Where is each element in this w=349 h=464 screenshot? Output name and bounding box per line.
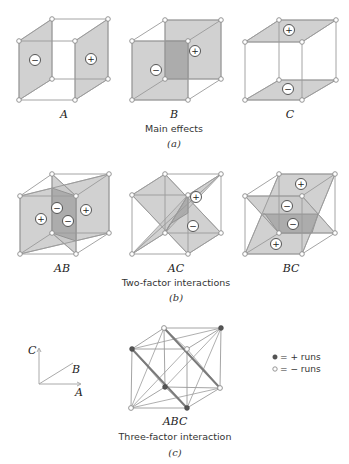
cube-b: − + B xyxy=(130,18,224,121)
cube-label-b: B xyxy=(169,108,178,121)
face-overlap xyxy=(165,41,188,79)
svg-text:+: + xyxy=(297,179,305,189)
plus-sign-icon: + xyxy=(271,239,282,250)
axis-label-b: B xyxy=(71,363,80,376)
open-dot-icon xyxy=(273,367,277,371)
plus-run-vertex xyxy=(185,406,190,411)
dark-dot-icon xyxy=(273,355,277,359)
plus-run-vertex xyxy=(219,326,224,331)
minus-sign-icon: − xyxy=(282,201,293,212)
minus-sign-icon: − xyxy=(288,219,299,230)
svg-text:−: − xyxy=(283,201,291,211)
axis-diagram: C B A xyxy=(28,344,83,399)
legend-minus-runs: = − runs xyxy=(280,364,321,374)
plus-run-vertex xyxy=(130,347,135,352)
cube-ac: + − AC xyxy=(130,172,224,275)
minus-run-vertex xyxy=(162,326,167,331)
cube-bc: + − − + BC xyxy=(243,172,338,275)
legend-plus-runs: = + runs xyxy=(280,352,321,362)
cube-label-ac: AC xyxy=(167,262,185,275)
minus-sign-icon: − xyxy=(30,55,41,66)
cube-ab: + − − + AB xyxy=(18,172,112,275)
svg-text:−: − xyxy=(284,84,292,94)
part-label-b: (b) xyxy=(169,292,183,303)
part-label-a: (a) xyxy=(167,138,181,149)
part-label-c: (c) xyxy=(168,447,182,458)
svg-text:−: − xyxy=(189,221,197,231)
cube-label-a: A xyxy=(59,108,68,121)
plus-sign-icon: + xyxy=(190,46,201,57)
svg-text:−: − xyxy=(152,65,160,75)
b-axis xyxy=(39,363,73,384)
plus-sign-icon: + xyxy=(36,214,47,225)
cube-label-c: C xyxy=(286,108,295,121)
minus-sign-icon: − xyxy=(188,221,199,232)
svg-text:+: + xyxy=(82,205,90,215)
svg-text:−: − xyxy=(64,216,72,226)
legend: = + runs = − runs xyxy=(273,352,321,374)
minus-run-vertex xyxy=(185,347,190,352)
svg-text:−: − xyxy=(31,55,39,65)
axis-label-c: C xyxy=(28,344,37,357)
plus-sign-icon: + xyxy=(86,54,97,65)
svg-text:+: + xyxy=(192,192,200,202)
caption-two-factor: Two-factor interactions xyxy=(121,277,231,288)
cube-edges xyxy=(132,174,221,254)
minus-run-vertex xyxy=(129,406,134,411)
cube-c: + − C xyxy=(243,18,339,121)
cube-label-bc: BC xyxy=(282,262,300,275)
cube-a: − + A xyxy=(17,17,111,121)
svg-text:+: + xyxy=(272,239,280,249)
svg-text:−: − xyxy=(289,219,297,229)
svg-text:+: + xyxy=(37,214,45,224)
svg-text:+: + xyxy=(87,54,95,64)
minus-sign-icon: − xyxy=(151,65,162,76)
cube-label-abc: ABC xyxy=(162,415,188,428)
svg-text:−: − xyxy=(53,203,61,213)
cube-label-ab: AB xyxy=(53,262,70,275)
minus-sign-icon: − xyxy=(52,203,63,214)
svg-text:+: + xyxy=(191,46,199,56)
caption-main-effects: Main effects xyxy=(145,123,203,134)
minus-run-vertex xyxy=(218,386,223,391)
cube-abc: ABC xyxy=(129,326,224,428)
factorial-effects-figure: − + A − + xyxy=(0,0,349,464)
caption-three-factor: Three-factor interaction xyxy=(118,431,232,442)
plus-run-vertex xyxy=(163,385,168,390)
plus-sign-icon: + xyxy=(284,25,295,36)
plus-sign-icon: + xyxy=(81,205,92,216)
minus-sign-icon: − xyxy=(63,216,74,227)
svg-text:+: + xyxy=(285,25,293,35)
minus-sign-icon: − xyxy=(283,84,294,95)
axis-label-a: A xyxy=(74,386,83,399)
plus-sign-icon: + xyxy=(296,179,307,190)
plus-sign-icon: + xyxy=(191,192,202,203)
